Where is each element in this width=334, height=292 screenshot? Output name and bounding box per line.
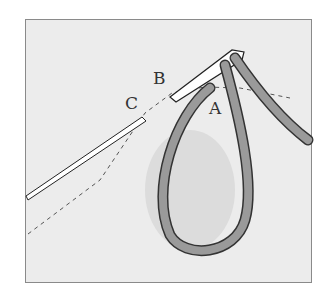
stitch-drawing [0, 0, 334, 292]
label-c: C [125, 93, 138, 113]
label-a: A [209, 98, 221, 118]
label-b: B [153, 68, 166, 88]
needle-lower [26, 117, 146, 200]
